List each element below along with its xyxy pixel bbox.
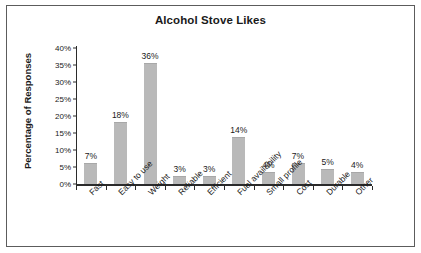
y-axis-tick-mark <box>73 167 76 168</box>
x-axis-tick-mark <box>165 186 166 190</box>
y-axis-title: Percentage of Responses <box>21 38 35 184</box>
x-axis-tick-mark <box>194 186 195 190</box>
bar <box>232 137 245 184</box>
x-axis-tick-mark <box>313 186 314 190</box>
x-axis-tick-mark <box>135 186 136 190</box>
y-axis-tick-mark <box>73 116 76 117</box>
y-axis-tick-mark <box>73 82 76 83</box>
chart-title: Alcohol Stove Likes <box>0 14 421 26</box>
x-axis-tick-mark <box>224 186 225 190</box>
y-axis-tick-mark <box>73 184 76 185</box>
x-axis-tick-mark <box>106 186 107 190</box>
x-axis-tick-mark <box>342 186 343 190</box>
plot-area: 0%5%10%15%20%25%30%35%40% 7%18%36%3%3%14… <box>76 48 372 184</box>
bar-value-label: 18% <box>102 110 138 120</box>
x-axis-tick-mark <box>283 186 284 190</box>
y-axis-tick-mark <box>73 133 76 134</box>
y-axis-tick-mark <box>73 99 76 100</box>
bar-value-label: 36% <box>132 51 168 61</box>
x-axis-tick-mark <box>372 186 373 190</box>
x-axis-tick-mark <box>254 186 255 190</box>
bar <box>114 122 127 184</box>
bar-value-label: 7% <box>73 151 109 161</box>
x-axis-tick-mark <box>76 186 77 190</box>
bar-value-label: 14% <box>221 125 257 135</box>
y-axis-tick-mark <box>73 48 76 49</box>
chart-screenshot: Alcohol Stove Likes Percentage of Respon… <box>0 0 421 253</box>
y-axis-tick-mark <box>73 65 76 66</box>
